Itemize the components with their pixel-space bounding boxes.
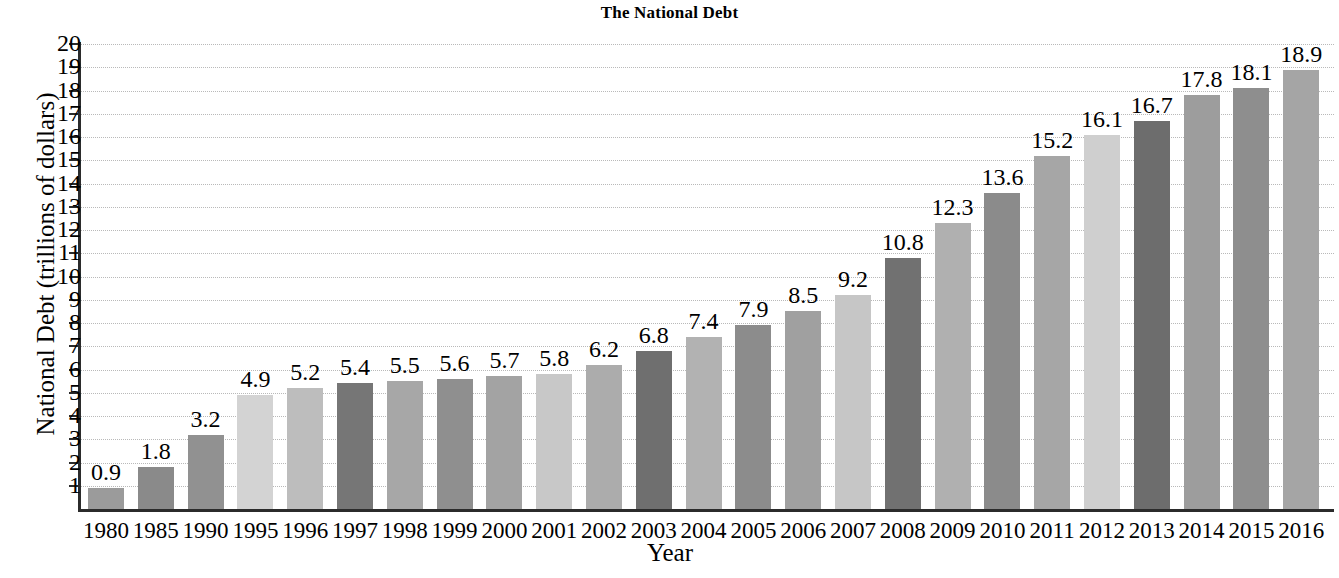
- y-axis-tick-label: 1: [29, 473, 81, 497]
- x-axis-tick-label: 2009: [925, 519, 981, 542]
- bar: [636, 351, 672, 509]
- bar: [984, 193, 1020, 509]
- y-axis-tick-label: 4: [29, 403, 81, 427]
- bar: [686, 337, 722, 509]
- y-axis-tick-label: 11: [29, 240, 81, 264]
- bar: [337, 383, 373, 509]
- bar-value-label: 12.3: [923, 195, 983, 219]
- y-axis-tick-label: 18: [29, 78, 81, 102]
- bar-chart: The National Debt National Debt (trillio…: [0, 0, 1339, 578]
- bar: [935, 223, 971, 509]
- x-axis-tick-label: 2005: [725, 519, 781, 542]
- y-axis-tick-label: 10: [29, 264, 81, 288]
- bar: [1034, 156, 1070, 509]
- y-axis-tick-label: 8: [29, 310, 81, 334]
- y-axis-tick-label: 13: [29, 194, 81, 218]
- x-axis-tick-label: 2003: [626, 519, 682, 542]
- x-axis-tick-label: 1990: [178, 519, 234, 542]
- bar-value-label: 3.2: [176, 407, 236, 431]
- bar: [1233, 88, 1269, 509]
- bar: [735, 325, 771, 509]
- x-axis-tick-label: 1980: [78, 519, 134, 542]
- plot-area: 2019181716151413121110987654321 0.91.83.…: [78, 42, 1334, 511]
- x-axis-tick-label: 2004: [676, 519, 732, 542]
- bar: [287, 388, 323, 509]
- y-axis-tick-label: 7: [29, 333, 81, 357]
- y-axis-tick-label: 2: [29, 450, 81, 474]
- x-axis-tick-label: 1998: [377, 519, 433, 542]
- bar-value-label: 10.8: [873, 230, 933, 254]
- bar: [1084, 135, 1120, 509]
- gridline: [81, 67, 1334, 68]
- chart-title: The National Debt: [0, 3, 1339, 23]
- bar: [1134, 121, 1170, 509]
- bar: [1184, 95, 1220, 509]
- bar: [835, 295, 871, 509]
- x-axis-tick-label: 1985: [128, 519, 184, 542]
- x-axis-tick-label: 1996: [277, 519, 333, 542]
- bar: [1283, 70, 1319, 509]
- x-axis-tick-label: 2013: [1124, 519, 1180, 542]
- bar-value-label: 18.9: [1271, 42, 1331, 66]
- y-axis-tick-label: 16: [29, 124, 81, 148]
- x-axis-tick-label: 2016: [1273, 519, 1329, 542]
- bar: [437, 379, 473, 509]
- bar: [88, 488, 124, 509]
- x-axis-tick-label: 2007: [825, 519, 881, 542]
- x-axis-title: Year: [590, 539, 750, 567]
- bar: [237, 395, 273, 509]
- x-axis-line: [78, 509, 1334, 512]
- y-axis-tick-label: 9: [29, 287, 81, 311]
- bar: [387, 381, 423, 509]
- y-axis-tick-label: 6: [29, 357, 81, 381]
- bar-value-label: 15.2: [1022, 128, 1082, 152]
- x-axis-tick-label: 2014: [1174, 519, 1230, 542]
- x-axis-tick-label: 1997: [327, 519, 383, 542]
- x-axis-tick-label: 2015: [1223, 519, 1279, 542]
- bar-value-label: 16.7: [1122, 93, 1182, 117]
- y-axis-tick-label: 19: [29, 54, 81, 78]
- bar-value-label: 9.2: [823, 267, 883, 291]
- gridline: [81, 44, 1334, 45]
- x-axis-tick-label: 2006: [775, 519, 831, 542]
- x-axis-tick-label: 1995: [227, 519, 283, 542]
- x-axis-tick-label: 2002: [576, 519, 632, 542]
- bar: [188, 435, 224, 509]
- bar: [138, 467, 174, 509]
- y-axis-tick-label: 17: [29, 101, 81, 125]
- bar: [885, 258, 921, 509]
- x-axis-tick-label: 2011: [1024, 519, 1080, 542]
- x-axis-tick-label: 2008: [875, 519, 931, 542]
- x-axis-tick-label: 2010: [974, 519, 1030, 542]
- bar-value-label: 13.6: [972, 165, 1032, 189]
- y-axis-tick-label: 20: [29, 31, 81, 55]
- y-axis-tick-label: 12: [29, 217, 81, 241]
- y-axis-tick-label: 5: [29, 380, 81, 404]
- y-axis-tick-label: 3: [29, 426, 81, 450]
- x-axis-tick-label: 1999: [427, 519, 483, 542]
- y-axis-tick-label: 14: [29, 171, 81, 195]
- bar: [486, 376, 522, 509]
- bar: [586, 365, 622, 509]
- bar: [785, 311, 821, 509]
- bar-value-label: 1.8: [126, 439, 186, 463]
- x-axis-tick-label: 2012: [1074, 519, 1130, 542]
- x-axis-tick-label: 2000: [476, 519, 532, 542]
- bar-value-label: 0.9: [76, 460, 136, 484]
- x-axis-tick-label: 2001: [526, 519, 582, 542]
- y-axis-tick-label: 15: [29, 147, 81, 171]
- bar: [536, 374, 572, 509]
